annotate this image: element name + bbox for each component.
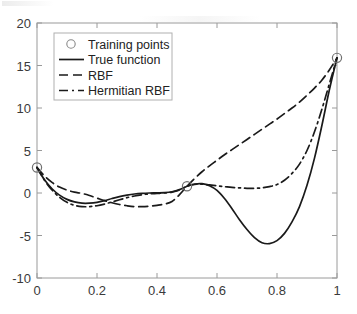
legend: Training pointsTrue functionRBFHermitian…: [54, 33, 172, 100]
y-tick-label: -10: [12, 271, 31, 286]
legend-label: RBF: [88, 69, 113, 83]
y-tick-label: 20: [17, 16, 31, 31]
y-tick-label: 5: [24, 144, 31, 159]
y-tick-label: 10: [17, 101, 31, 116]
chart-canvas: 00.20.40.60.81 20151050-5-10 Training po…: [0, 0, 357, 314]
y-tick-label: 0: [24, 186, 31, 201]
legend-label: Hermitian RBF: [88, 84, 170, 98]
legend-label: Training points: [88, 38, 170, 52]
y-tick-labels: 20151050-5-10: [12, 16, 31, 286]
x-tick-label: 1: [333, 283, 340, 298]
figure-container: 00.20.40.60.81 20151050-5-10 Training po…: [0, 0, 357, 314]
legend-label: True function: [88, 53, 161, 67]
x-tick-label: 0: [33, 283, 40, 298]
x-tick-label: 0.6: [208, 283, 226, 298]
y-tick-label: -5: [19, 229, 31, 244]
x-tick-label: 0.2: [88, 283, 106, 298]
x-tick-label: 0.4: [148, 283, 166, 298]
y-tick-label: 15: [17, 59, 31, 74]
x-tick-labels: 00.20.40.60.81: [33, 283, 340, 298]
x-tick-label: 0.8: [268, 283, 286, 298]
